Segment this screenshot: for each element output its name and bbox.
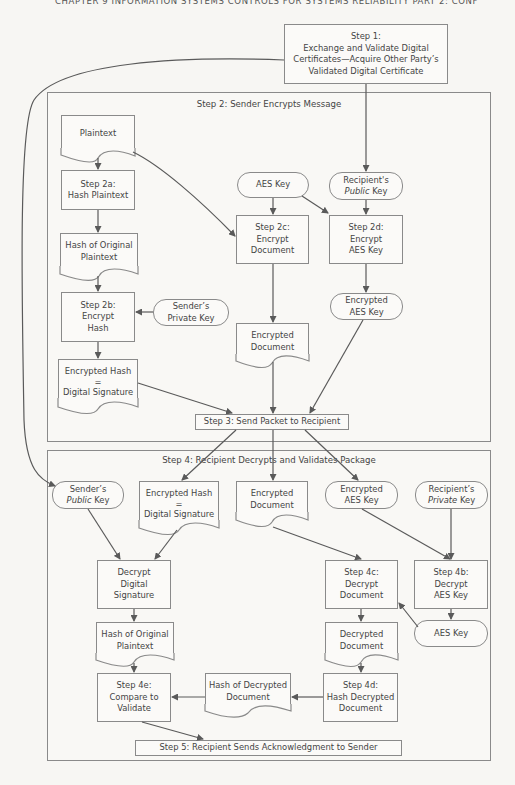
- sender-private-key-label: Sender’s Private Key: [167, 301, 214, 324]
- plaintext-document: Plaintext: [61, 115, 135, 149]
- plaintext-label: Plaintext: [80, 128, 117, 140]
- step3-label: Step 3: Send Packet to Recipient: [204, 416, 340, 428]
- step4-hash-original-document: Hash of Original Plaintext: [96, 622, 174, 654]
- step2a-box: Step 2a: Hash Plaintext: [61, 170, 135, 210]
- step4-encrypted-document: Encrypted Document: [236, 481, 308, 513]
- step4e-label: Step 4e: Compare to Validate: [109, 680, 158, 715]
- recipient-public-key: Recipient'sPublic Key: [329, 172, 403, 200]
- encrypted-document: Encrypted Document: [236, 323, 309, 355]
- step4-hash-original-label: Hash of Original Plaintext: [101, 629, 168, 652]
- encrypted-document-label: Encrypted Document: [251, 330, 294, 353]
- step4-encrypted-hash-document: Encrypted Hash = Digital Signature: [139, 481, 219, 521]
- step2c-box: Step 2c: Encrypt Document: [236, 215, 309, 264]
- step4d-label: Step 4d: Hash Decrypted Document: [327, 680, 394, 715]
- step5-box: Step 5: Recipient Sends Acknowledgment t…: [135, 740, 402, 756]
- decrypt-signature-label: Decrypt Digital Signature: [114, 567, 154, 602]
- step2-title: Step 2: Sender Encrypts Message: [48, 99, 490, 109]
- decrypt-signature-box: Decrypt Digital Signature: [97, 560, 171, 609]
- step2c-label: Step 2c: Encrypt Document: [251, 222, 294, 257]
- step4b-label: Step 4b: Decrypt AES Key: [433, 567, 468, 602]
- encrypted-aes-key-label: Encrypted AES Key: [345, 295, 388, 318]
- step4-aes-key-label: AES Key: [434, 628, 468, 640]
- step2d-box: Step 2d: Encrypt AES Key: [329, 215, 403, 264]
- encrypted-hash-document: Encrypted Hash = Digital Signature: [58, 359, 138, 399]
- recipient-public-key-label: Recipient'sPublic Key: [343, 175, 389, 198]
- step2b-box: Step 2b: Encrypt Hash: [61, 292, 135, 342]
- aes-key: AES Key: [237, 172, 309, 198]
- step4-title: Step 4: Recipient Decrypts and Validates…: [48, 455, 490, 465]
- recipient-private-key: Recipient’sPrivate Key: [415, 481, 488, 509]
- hash-original-label: Hash of Original Plaintext: [65, 240, 132, 263]
- step4c-box: Step 4c: Decrypt Document: [325, 560, 398, 609]
- step4b-box: Step 4b: Decrypt AES Key: [414, 560, 488, 609]
- recipient-private-key-label: Recipient’sPrivate Key: [428, 484, 475, 507]
- decrypted-document-label: Decrypted Document: [340, 629, 384, 652]
- step4d-box: Step 4d: Hash Decrypted Document: [323, 673, 398, 722]
- decrypted-document: Decrypted Document: [325, 622, 398, 654]
- step4e-box: Step 4e: Compare to Validate: [97, 673, 171, 722]
- hash-decrypted-label: Hash of Decrypted Document: [209, 680, 287, 703]
- sender-public-key-label: Sender’sPublic Key: [67, 484, 110, 507]
- aes-key-label: AES Key: [256, 179, 290, 191]
- step4-encrypted-hash-label: Encrypted Hash = Digital Signature: [144, 488, 214, 520]
- step4-encrypted-document-label: Encrypted Document: [250, 488, 293, 511]
- step2d-label: Step 2d: Encrypt AES Key: [348, 222, 383, 257]
- step4-encrypted-aes-key-label: Encrypted AES Key: [340, 484, 383, 507]
- encrypted-hash-label: Encrypted Hash = Digital Signature: [63, 366, 133, 398]
- step2a-label: Step 2a: Hash Plaintext: [68, 179, 128, 202]
- step3-box: Step 3: Send Packet to Recipient: [195, 414, 349, 430]
- page-header: CHAPTER 9 INFORMATION SYSTEMS CONTROLS F…: [55, 0, 478, 6]
- step4-aes-key: AES Key: [414, 620, 488, 647]
- hash-original-document: Hash of Original Plaintext: [60, 233, 138, 267]
- encrypted-aes-key: Encrypted AES Key: [330, 293, 403, 320]
- hash-decrypted-document: Hash of Decrypted Document: [205, 673, 291, 705]
- sender-private-key: Sender’s Private Key: [153, 299, 229, 326]
- sender-public-key: Sender’sPublic Key: [52, 481, 124, 509]
- step4-encrypted-aes-key: Encrypted AES Key: [325, 481, 398, 509]
- step5-label: Step 5: Recipient Sends Acknowledgment t…: [160, 742, 378, 754]
- step2b-label: Step 2b: Encrypt Hash: [80, 300, 115, 335]
- step4c-label: Step 4c: Decrypt Document: [340, 567, 383, 602]
- step1-box: Step 1: Exchange and Validate Digital Ce…: [284, 24, 448, 84]
- step1-label: Step 1: Exchange and Validate Digital Ce…: [293, 31, 438, 77]
